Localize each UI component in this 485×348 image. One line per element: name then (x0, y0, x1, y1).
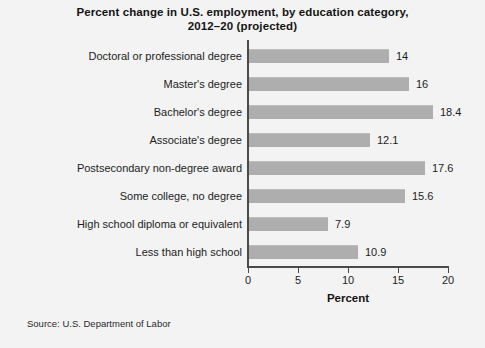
bar (249, 245, 358, 259)
x-axis-tick-label: 10 (328, 274, 368, 286)
bar-row: Master's degree16 (0, 70, 485, 98)
bar-row: High school diploma or equivalent7.9 (0, 210, 485, 238)
chart-figure: Percent change in U.S. employment, by ed… (0, 0, 485, 348)
bar-row: Associate's degree12.1 (0, 126, 485, 154)
category-label: High school diploma or equivalent (0, 210, 242, 238)
x-axis-tick (448, 268, 449, 273)
x-axis-title: Percent (248, 292, 448, 304)
category-label: Some college, no degree (0, 182, 242, 210)
x-axis-tick (248, 268, 249, 273)
bar-value-label: 18.4 (440, 98, 461, 126)
category-label: Doctoral or professional degree (0, 42, 242, 70)
category-label: Master's degree (0, 70, 242, 98)
bar (249, 49, 389, 63)
chart-title-line-1: Percent change in U.S. employment, by ed… (0, 5, 485, 19)
bar-value-label: 12.1 (377, 126, 398, 154)
category-label: Less than high school (0, 238, 242, 266)
bar-row: Bachelor's degree18.4 (0, 98, 485, 126)
bar-value-label: 7.9 (335, 210, 350, 238)
category-label: Postsecondary non-degree award (0, 154, 242, 182)
x-axis-tick (348, 268, 349, 273)
bar (249, 189, 405, 203)
x-axis-tick (298, 268, 299, 273)
bar-row: Some college, no degree15.6 (0, 182, 485, 210)
bar (249, 133, 370, 147)
plot-area: Doctoral or professional degree14Master'… (0, 40, 485, 275)
x-axis-tick (398, 268, 399, 273)
x-axis-tick-label: 0 (228, 274, 268, 286)
bar (249, 161, 425, 175)
bar-value-label: 16 (416, 70, 428, 98)
category-label: Associate's degree (0, 126, 242, 154)
x-axis-tick-label: 20 (428, 274, 468, 286)
category-label: Bachelor's degree (0, 98, 242, 126)
bar-value-label: 15.6 (412, 182, 433, 210)
bar (249, 217, 328, 231)
bar-value-label: 10.9 (365, 238, 386, 266)
source-note: Source: U.S. Department of Labor (27, 318, 171, 329)
bar-value-label: 14 (396, 42, 408, 70)
bar-row: Doctoral or professional degree14 (0, 42, 485, 70)
bar (249, 77, 409, 91)
bar-row: Postsecondary non-degree award17.6 (0, 154, 485, 182)
bar (249, 105, 433, 119)
x-axis-tick-label: 15 (378, 274, 418, 286)
bar-row: Less than high school10.9 (0, 238, 485, 266)
chart-title: Percent change in U.S. employment, by ed… (0, 5, 485, 33)
x-axis-tick-label: 5 (278, 274, 318, 286)
chart-title-line-2: 2012–20 (projected) (0, 19, 485, 33)
bar-value-label: 17.6 (432, 154, 453, 182)
